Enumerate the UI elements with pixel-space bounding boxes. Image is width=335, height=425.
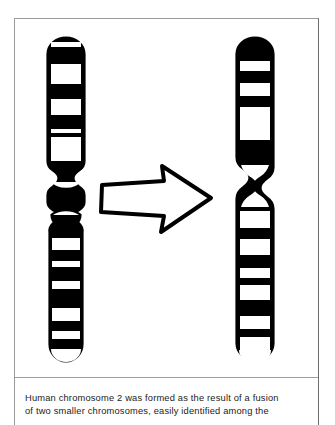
lower-left-chromosome: [50, 211, 82, 362]
band-light-c2-9: [240, 337, 270, 351]
band-light-c2-10: [239, 350, 271, 364]
caption-line-2: of two smaller chromosomes, easily ident…: [25, 405, 313, 418]
band-light-ul-2: [51, 64, 81, 84]
band-light-ll-3: [52, 281, 80, 289]
band-light-c2-4: [240, 211, 270, 228]
band-light-c2-5: [240, 239, 270, 255]
band-light-ul-3: [51, 99, 81, 115]
frame-right-border: [318, 18, 319, 425]
fusion-arrow: [101, 166, 211, 232]
caption-line-1: Human chromosome 2 was formed as the res…: [25, 392, 313, 405]
human-chromosome-2: [237, 38, 273, 364]
band-light-c2-6: [240, 268, 270, 278]
band-light-c2-3: [240, 107, 270, 140]
band-light-c2-8: [240, 316, 270, 329]
band-light-ul-4: [51, 129, 81, 133]
band-light-ul-1: [51, 42, 81, 47]
band-light-c2-2: [240, 83, 270, 96]
caption-separator-rule: [15, 377, 318, 378]
band-light-ll-1: [52, 238, 80, 250]
figure-page: Human chromosome 2 was formed as the res…: [0, 0, 335, 425]
band-light-ll-4: [52, 308, 80, 321]
figure-canvas: [15, 19, 318, 377]
band-light-ll-6: [51, 349, 81, 362]
chromosome-fusion-figure: [15, 19, 318, 377]
band-light-ll-2: [52, 261, 80, 267]
band-light-ll-5: [52, 331, 80, 339]
figure-caption: Human chromosome 2 was formed as the res…: [25, 392, 313, 417]
band-light-c2-7: [240, 285, 270, 300]
band-light-ul-5: [51, 137, 81, 161]
upper-left-chromosome: [48, 38, 84, 213]
band-light-c2-1: [240, 61, 270, 71]
fusion-arrow-outline: [101, 166, 211, 232]
